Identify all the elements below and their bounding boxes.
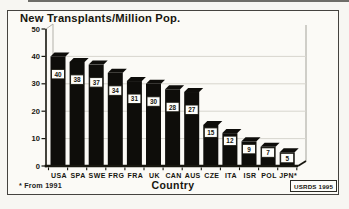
bar-top [184, 88, 203, 92]
y-tick-label: 50 [32, 25, 40, 34]
bar [146, 84, 161, 166]
y-tick-label: 40 [32, 52, 40, 61]
bar-value-label: 37 [93, 79, 101, 86]
bar-value-label: 31 [131, 95, 139, 102]
bar-value-label: 9 [247, 146, 251, 153]
x-tick-label: POL [261, 172, 277, 179]
bar-top [261, 143, 280, 147]
bar-value-label: 34 [112, 87, 120, 94]
bar-top [280, 148, 299, 152]
bar-top [203, 121, 222, 125]
bar-value-label: 12 [226, 137, 234, 144]
bar [165, 89, 180, 166]
figure-scan: New Transplants/Million Pop. 40USA38SPA3… [0, 0, 349, 209]
bar-top [127, 77, 146, 81]
bar-top [108, 69, 127, 73]
x-tick-label: SPA [71, 172, 86, 179]
y-tick-label: 10 [32, 134, 40, 143]
x-tick-label: FRA [128, 172, 144, 179]
y-tick-label: 20 [32, 107, 40, 116]
x-tick-label: SWE [89, 172, 106, 179]
y-tick-label: 30 [32, 79, 40, 88]
x-tick-label: JPN* [279, 172, 297, 179]
bar-top [89, 61, 108, 65]
x-tick-label: ISR [244, 172, 257, 179]
bar-top [146, 80, 165, 84]
bar-value-label: 40 [54, 71, 62, 78]
x-tick-label: UK [149, 172, 160, 179]
x-tick-label: CAN [165, 172, 181, 179]
bar-top [70, 58, 89, 62]
bar-value-label: 30 [150, 98, 158, 105]
chart-footnote: * From 1991 [19, 181, 62, 190]
source-label: USRDS 1995 [290, 180, 337, 192]
bar-top [242, 137, 261, 141]
x-tick-label: AUS [185, 172, 201, 179]
y-tick-label: 0 [36, 162, 40, 171]
x-tick-label: ITA [225, 172, 237, 179]
bar-top [165, 85, 184, 89]
bar-value-label: 27 [188, 106, 196, 113]
bar-value-label: 28 [169, 104, 177, 111]
bar-top [222, 129, 241, 133]
axis-depth-edge [46, 24, 53, 29]
bar-chart: 40USA38SPA37SWE34FRG31FRA30UK28CAN27AUS1… [0, 0, 349, 209]
floor-edge [298, 161, 306, 166]
bar-value-label: 7 [266, 149, 270, 156]
x-tick-label: CZE [204, 172, 219, 179]
x-axis-title: Country [140, 179, 206, 191]
x-tick-label: USA [51, 172, 67, 179]
bar-value-label: 38 [74, 76, 82, 83]
bar [184, 92, 199, 166]
bar-value-label: 5 [285, 155, 289, 162]
x-tick-label: FRG [108, 172, 124, 179]
bar-value-label: 15 [207, 129, 215, 136]
